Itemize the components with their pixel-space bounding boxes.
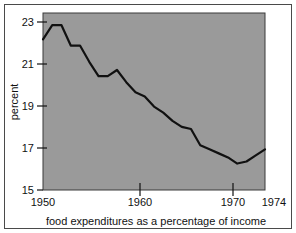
plot-area-background [43, 13, 265, 190]
chart-figure: 23 21 19 17 15 percent 1950 1960 1970 19… [0, 0, 296, 233]
x-tick-label-1950: 1950 [31, 196, 55, 208]
x-tick-label-1970: 1970 [221, 196, 245, 208]
x-tick-label-1974: 1974 [262, 196, 286, 208]
y-tick-label-15: 15 [22, 184, 34, 196]
line-chart: 23 21 19 17 15 percent 1950 1960 1970 19… [0, 0, 296, 233]
y-axis-title: percent [8, 84, 20, 121]
y-tick-label-23: 23 [22, 16, 34, 28]
x-axis-title: food expenditures as a percentage of inc… [46, 215, 266, 227]
y-tick-label-19: 19 [22, 100, 34, 112]
x-tick-label-1960: 1960 [128, 196, 152, 208]
y-tick-label-17: 17 [22, 142, 34, 154]
y-tick-label-21: 21 [22, 58, 34, 70]
